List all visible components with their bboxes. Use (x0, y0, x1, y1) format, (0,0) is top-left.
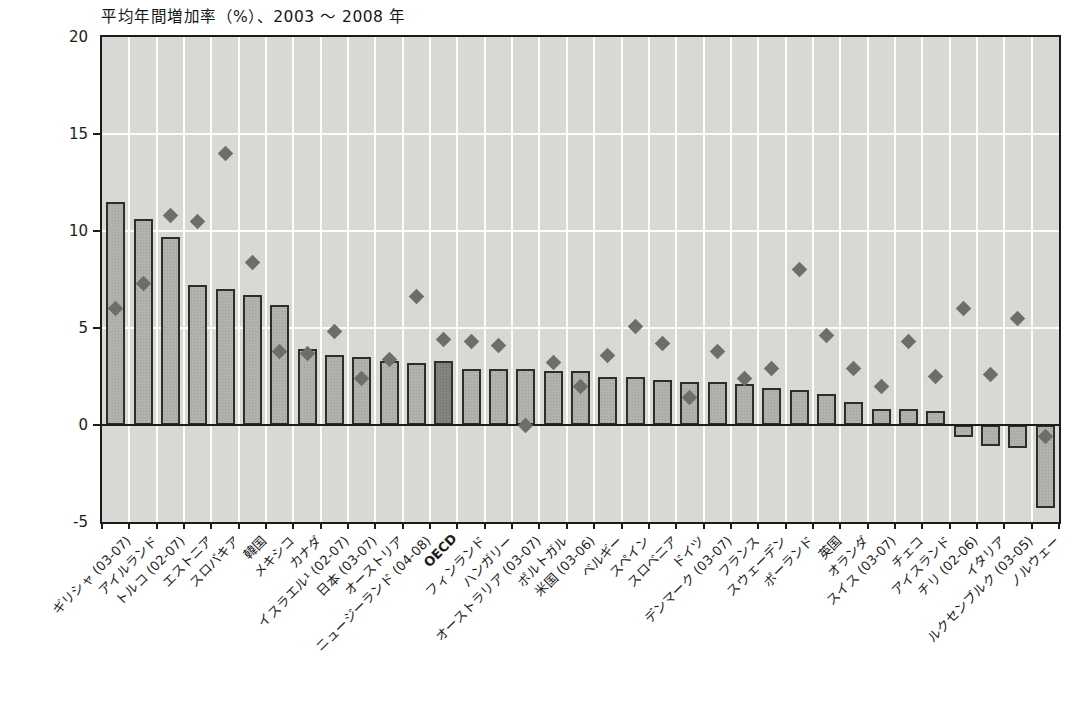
vertical-gridline (648, 37, 650, 522)
horizontal-gridline (102, 230, 1059, 232)
vertical-gridline (183, 37, 185, 522)
bar (926, 411, 945, 425)
x-axis-tick (1003, 524, 1005, 529)
vertical-gridline (265, 37, 267, 522)
vertical-gridline (593, 37, 595, 522)
vertical-gridline (538, 37, 540, 522)
x-axis-tick (621, 524, 623, 529)
x-axis-tick (1031, 524, 1033, 529)
vertical-gridline (867, 37, 869, 522)
x-axis-tick (730, 524, 732, 529)
bar (1008, 425, 1027, 448)
y-axis-tick (93, 230, 100, 232)
vertical-gridline (484, 37, 486, 522)
bar (790, 390, 809, 425)
bar (188, 285, 207, 425)
bar (735, 384, 754, 425)
y-axis-tick-label: 20 (52, 28, 88, 46)
vertical-gridline (976, 37, 978, 522)
x-axis-tick (238, 524, 240, 529)
vertical-gridline (456, 37, 458, 522)
x-axis-tick (839, 524, 841, 529)
x-axis-tick (402, 524, 404, 529)
bar (134, 219, 153, 425)
bar (762, 388, 781, 425)
bar (544, 371, 563, 425)
y-axis-tick (93, 424, 100, 426)
x-axis-tick (757, 524, 759, 529)
bar (462, 369, 481, 425)
vertical-gridline (812, 37, 814, 522)
bar (489, 369, 508, 425)
bar (434, 361, 453, 425)
zero-line (102, 424, 1059, 426)
vertical-gridline (347, 37, 349, 522)
x-axis-tick (429, 524, 431, 529)
bar (981, 425, 1000, 446)
y-axis-tick-label: 5 (52, 319, 88, 337)
y-axis-tick (93, 327, 100, 329)
bar (407, 363, 426, 425)
x-axis-tick (921, 524, 923, 529)
bar (380, 361, 399, 425)
vertical-gridline (429, 37, 431, 522)
bar (516, 369, 535, 425)
bar (352, 357, 371, 425)
y-axis-tick-label: 0 (52, 416, 88, 434)
y-axis-tick (93, 133, 100, 135)
figure: 平均年間増加率（%）、2003 ～ 2008 年 20151050-5ギリシャ … (0, 0, 1073, 718)
x-axis-tick (566, 524, 568, 529)
vertical-gridline (210, 37, 212, 522)
vertical-gridline (894, 37, 896, 522)
x-axis-tick (812, 524, 814, 529)
bar (844, 402, 863, 425)
bar (161, 237, 180, 425)
vertical-gridline (1003, 37, 1005, 522)
x-axis-tick (894, 524, 896, 529)
bar (708, 382, 727, 425)
vertical-gridline (921, 37, 923, 522)
plot-area (100, 35, 1061, 524)
vertical-gridline (128, 37, 130, 522)
y-axis-tick-label: -5 (52, 513, 88, 531)
x-axis-tick (785, 524, 787, 529)
vertical-gridline (238, 37, 240, 522)
vertical-gridline (757, 37, 759, 522)
bar (626, 377, 645, 426)
x-axis-tick (648, 524, 650, 529)
vertical-gridline (621, 37, 623, 522)
x-axis-tick (374, 524, 376, 529)
vertical-gridline (320, 37, 322, 522)
x-axis-tick (292, 524, 294, 529)
x-axis-tick (593, 524, 595, 529)
bar (216, 289, 235, 425)
bar (872, 409, 891, 425)
x-axis-tick (320, 524, 322, 529)
x-axis-tick (484, 524, 486, 529)
vertical-gridline (785, 37, 787, 522)
y-axis-tick-label: 10 (52, 222, 88, 240)
x-axis-tick (538, 524, 540, 529)
x-axis-tick (703, 524, 705, 529)
x-axis-tick (976, 524, 978, 529)
vertical-gridline (703, 37, 705, 522)
vertical-gridline (1031, 37, 1033, 522)
bar (270, 305, 289, 425)
x-axis-tick (1058, 524, 1060, 529)
vertical-gridline (949, 37, 951, 522)
vertical-gridline (511, 37, 513, 522)
horizontal-gridline (102, 133, 1059, 135)
x-axis-tick (347, 524, 349, 529)
vertical-gridline (839, 37, 841, 522)
x-axis-tick (101, 524, 103, 529)
bar (243, 295, 262, 425)
vertical-gridline (730, 37, 732, 522)
bar (899, 409, 918, 425)
x-axis-tick (265, 524, 267, 529)
vertical-gridline (566, 37, 568, 522)
bar (954, 425, 973, 437)
vertical-gridline (374, 37, 376, 522)
x-axis-tick (210, 524, 212, 529)
x-axis-tick (867, 524, 869, 529)
bar (325, 355, 344, 425)
